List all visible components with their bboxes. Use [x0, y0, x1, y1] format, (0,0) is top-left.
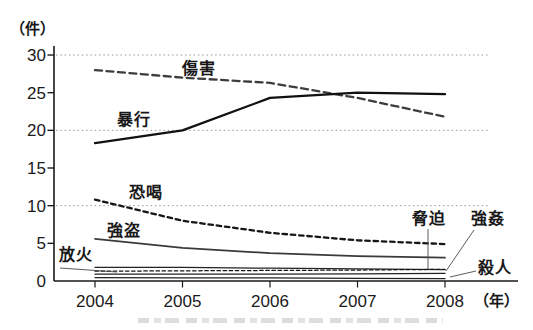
series-label-arson: 放火: [59, 247, 93, 263]
line-chart-figure: 05101520253020042005200620072008 （件） （年）…: [0, 0, 533, 330]
x-tick-label-2007: 2007: [339, 292, 377, 311]
series-label-intimidation: 脅迫: [412, 211, 446, 227]
y-tick-label-5: 5: [37, 234, 46, 253]
series-label-rape: 強姦: [471, 211, 505, 227]
series-label-assault: 暴行: [117, 112, 151, 128]
series-line-7: [95, 278, 445, 279]
cropped-caption-fragment: [138, 318, 443, 323]
leader-arson: [60, 268, 117, 272]
line-chart-canvas: 05101520253020042005200620072008: [0, 0, 533, 330]
y-tick-label-0: 0: [37, 272, 46, 291]
leader-rape: [446, 230, 474, 271]
x-tick-label-2005: 2005: [164, 292, 202, 311]
series-line-6: [95, 273, 445, 274]
y-tick-label-30: 30: [27, 46, 46, 65]
series-label-robbery: 強盗: [107, 223, 141, 239]
x-tick-label-2006: 2006: [251, 292, 289, 311]
y-tick-label-10: 10: [27, 197, 46, 216]
series-label-injury: 傷害: [182, 61, 216, 77]
series-line-2: [95, 200, 445, 244]
y-tick-label-15: 15: [27, 159, 46, 178]
series-label-murder: 殺人: [478, 260, 512, 276]
y-tick-label-25: 25: [27, 84, 46, 103]
x-axis-unit-label: （年）: [474, 293, 519, 308]
y-tick-label-20: 20: [27, 121, 46, 140]
series-label-extortion: 恐喝: [129, 185, 163, 201]
x-tick-label-2008: 2008: [426, 292, 464, 311]
series-line-4: [95, 267, 445, 269]
x-tick-label-2004: 2004: [76, 292, 114, 311]
leader-murder: [450, 271, 476, 277]
y-axis-unit-label: （件）: [10, 21, 55, 36]
